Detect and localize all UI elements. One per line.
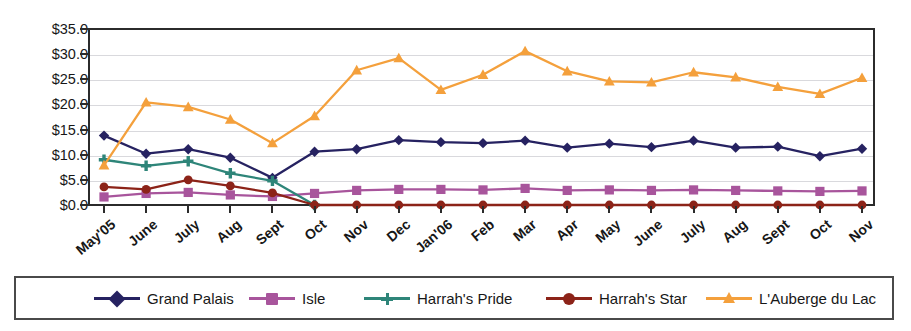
x-tick-mark (861, 206, 863, 213)
y-tick-label: $10.0 (10, 148, 88, 162)
legend-key (546, 290, 592, 306)
x-tick-mark (187, 206, 189, 213)
x-tick-mark (356, 206, 358, 213)
x-tick-mark (735, 206, 737, 213)
plot-area (88, 28, 875, 206)
gridline (90, 156, 873, 157)
x-tick-mark (271, 206, 273, 213)
gridline (90, 80, 873, 81)
legend-marker-diamond-icon (109, 291, 126, 308)
legend-key (706, 290, 752, 306)
legend-key (364, 290, 410, 306)
y-tick-label: $5.0 (10, 173, 88, 187)
y-tick-label: $15.0 (10, 123, 88, 137)
legend-item-label: Harrah's Star (599, 290, 687, 307)
y-tick-label: $35.0 (10, 22, 88, 36)
legend-key (249, 290, 295, 306)
legend-item-label: Harrah's Pride (417, 290, 512, 307)
legend-item-harrah-s-pride[interactable]: Harrah's Pride (364, 290, 512, 307)
gridline (90, 105, 873, 106)
y-tick-mark (80, 103, 88, 105)
x-tick-mark (566, 206, 568, 213)
x-tick-mark (777, 206, 779, 213)
legend-item-label: L'Auberge du Lac (759, 290, 876, 307)
y-tick-label: $30.0 (10, 47, 88, 61)
x-tick-mark (482, 206, 484, 213)
x-tick-mark (524, 206, 526, 213)
legend-marker-plus-icon (381, 293, 393, 305)
line-chart: $0.0$5.0$10.0$15.0$20.0$25.0$30.0$35.0 M… (0, 0, 911, 331)
gridline (90, 131, 873, 132)
gridline (90, 181, 873, 182)
x-tick-mark (819, 206, 821, 213)
gridline (90, 55, 873, 56)
x-tick-mark (145, 206, 147, 213)
legend-marker-square-icon (266, 293, 278, 305)
y-tick-mark (80, 179, 88, 181)
y-tick-mark (80, 78, 88, 80)
y-tick-mark (80, 28, 88, 30)
x-tick-mark (398, 206, 400, 213)
legend-item-grand-palais[interactable]: Grand Palais (94, 290, 234, 307)
y-tick-label: $20.0 (10, 97, 88, 111)
y-tick-mark (80, 154, 88, 156)
x-tick-mark (608, 206, 610, 213)
x-tick-mark (440, 206, 442, 213)
legend-marker-circle-icon (563, 293, 575, 305)
legend-item-label: Isle (302, 290, 325, 307)
y-tick-mark (80, 129, 88, 131)
chart-legend: Grand PalaisIsleHarrah's PrideHarrah's S… (14, 276, 894, 320)
legend-item-isle[interactable]: Isle (249, 290, 325, 307)
x-tick-mark (103, 206, 105, 213)
legend-item-l-auberge-du-lac[interactable]: L'Auberge du Lac (706, 290, 876, 307)
legend-marker-triangle-icon (723, 292, 735, 303)
x-tick-mark (650, 206, 652, 213)
x-tick-mark (693, 206, 695, 213)
x-axis: May'05JuneJulyAugSeptOctNovDecJan'06FebM… (0, 206, 911, 266)
legend-key (94, 290, 140, 306)
x-tick-mark (229, 206, 231, 213)
x-tick-mark (314, 206, 316, 213)
y-tick-mark (80, 53, 88, 55)
legend-item-harrah-s-star[interactable]: Harrah's Star (546, 290, 687, 307)
y-tick-label: $25.0 (10, 72, 88, 86)
legend-item-label: Grand Palais (147, 290, 234, 307)
